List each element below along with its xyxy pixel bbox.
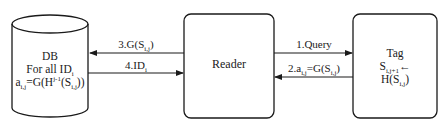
tag-label: Tag Si,j+1← H(Si,j) bbox=[353, 47, 437, 86]
edge-3-label: 3.G(Si,j) bbox=[104, 38, 168, 50]
tag-title: Tag bbox=[353, 47, 437, 60]
db-formula: ai,j=G(Hj-1(Si,j)) bbox=[12, 76, 88, 89]
db-label: DB For all IDi ai,j=G(Hj-1(Si,j)) bbox=[12, 50, 88, 89]
edge-4-label: 4.IDi bbox=[104, 59, 168, 71]
reader-label: Reader bbox=[184, 58, 274, 71]
edge-1-label: 1.Query bbox=[282, 38, 346, 50]
tag-hash: H(Si,j) bbox=[353, 73, 437, 86]
db-for-all-ids: For all IDi bbox=[12, 63, 88, 76]
db-title: DB bbox=[12, 50, 88, 63]
edge-2-label: 2.ai,j=G(Si,j) bbox=[278, 62, 350, 74]
tag-update-rule: Si,j+1← bbox=[353, 60, 437, 73]
